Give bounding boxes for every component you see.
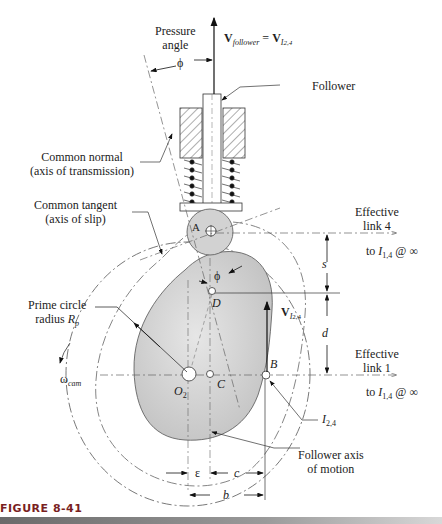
effective-link-1-label: Effectivelink 1: [355, 347, 399, 375]
figure-caption: FIGURE 8-41: [0, 502, 82, 515]
point-d-label: D: [212, 296, 221, 310]
to-i14-bottom-label: to I1,4 @ ∞: [366, 385, 418, 404]
guide-block-right: [223, 108, 245, 158]
follower-label: Follower: [312, 79, 355, 93]
phi-mid-label: ϕ: [214, 269, 220, 283]
guide-block-left: [180, 108, 202, 158]
effective-link-4-label: Effectivelink 4: [355, 205, 399, 233]
common-normal-label: Common normal(axis of transmission): [30, 150, 134, 178]
epsilon-dimension-label: ε: [195, 466, 200, 480]
to-i14-top-label: to I1,4 @ ∞: [366, 244, 418, 263]
point-c-marker: [207, 371, 214, 378]
point-a-label: A: [192, 220, 200, 234]
point-o2-label: O2: [174, 384, 187, 403]
omega-cam-label: ωcam: [60, 372, 81, 391]
velocity-equation: Vfollower = VI2,4: [224, 31, 292, 50]
c-dimension-label: c: [234, 466, 239, 480]
phi-top-label: ϕ: [177, 56, 183, 70]
pressure-angle-label: Pressureangle: [155, 24, 196, 52]
point-c-label: C: [217, 377, 225, 391]
b-dimension-label: b: [223, 488, 229, 502]
cam-body: [134, 252, 272, 441]
i24-label: I2,4: [322, 412, 336, 431]
common-tangent-label: Common tangent(axis of slip): [34, 198, 117, 226]
prime-circle-label: Prime circle radius Rp: [28, 298, 86, 331]
point-b-marker: [262, 371, 270, 379]
s-dimension-label: s: [322, 257, 327, 271]
point-b-label: B: [270, 357, 277, 371]
v-i24-label: VI2,4: [281, 305, 301, 324]
d-dimension-label: d: [322, 326, 328, 340]
spring-right: [222, 160, 240, 205]
point-d-marker: [209, 288, 216, 295]
spring-left: [184, 160, 202, 205]
follower-axis-label: Follower axisof motion: [298, 448, 364, 476]
caption-bar: [0, 517, 442, 524]
